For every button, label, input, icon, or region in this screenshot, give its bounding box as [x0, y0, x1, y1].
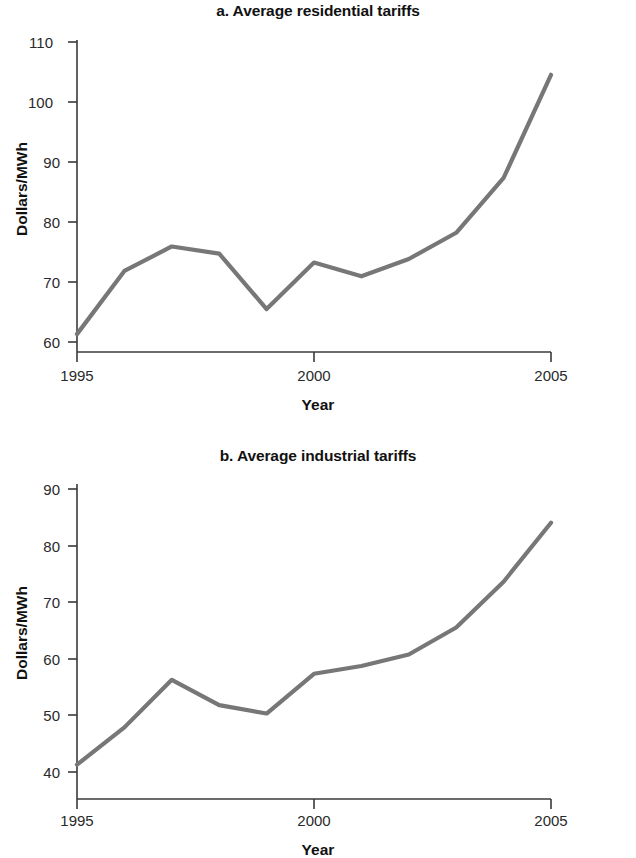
panel-a-y-ticks	[68, 42, 77, 342]
panel-b-x-ticks	[77, 799, 551, 809]
panel-b-y-ticks	[68, 489, 77, 772]
panel-b-data-line	[77, 523, 551, 765]
chart-panel-residential: a. Average residential tariffs Dollars/M…	[0, 0, 636, 429]
figure-two-panel-tariff-charts: a. Average residential tariffs Dollars/M…	[0, 0, 636, 858]
panel-a-plot-area	[0, 0, 636, 429]
panel-a-x-ticks	[77, 352, 551, 362]
chart-panel-industrial: b. Average industrial tariffs Dollars/MW…	[0, 429, 636, 858]
panel-a-data-line	[77, 75, 551, 334]
panel-b-plot-area	[0, 429, 636, 858]
